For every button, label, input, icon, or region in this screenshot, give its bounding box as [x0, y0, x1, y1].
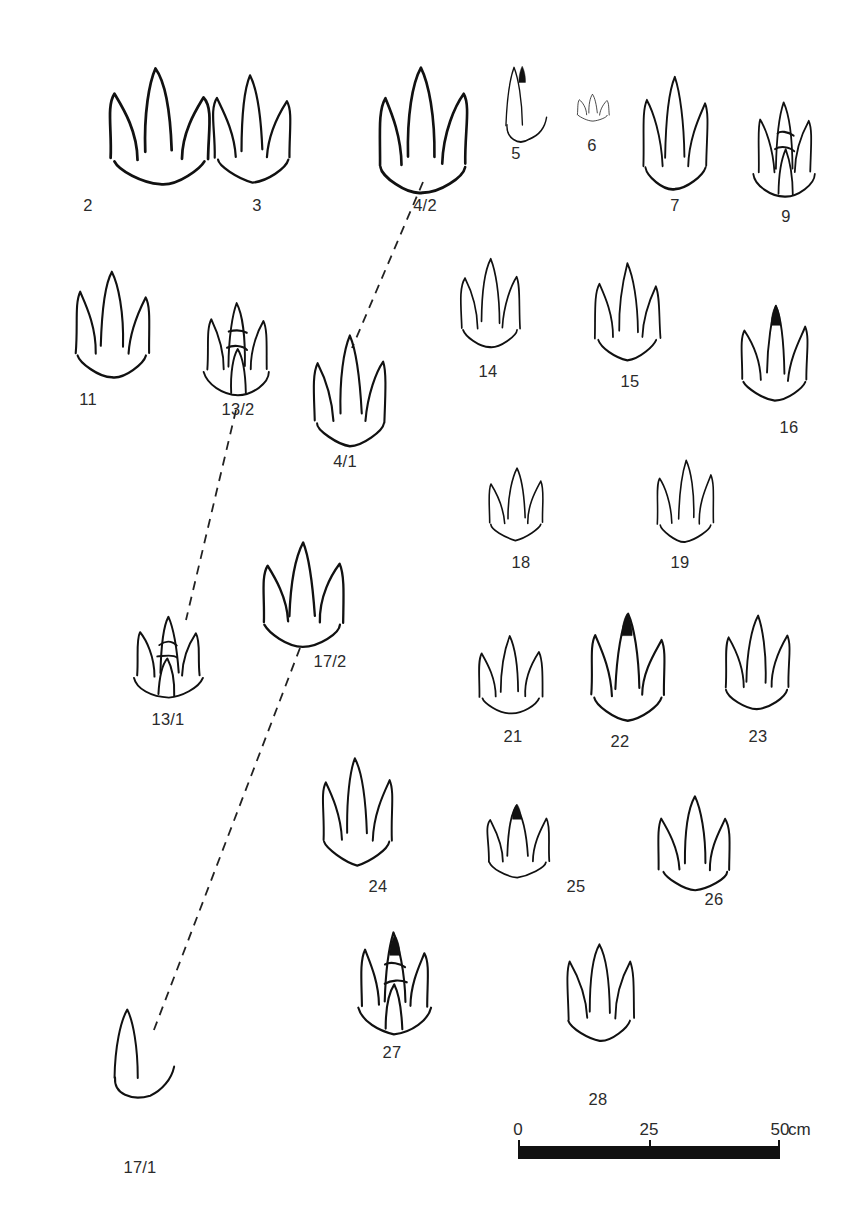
footprint-outline-17-2	[248, 535, 358, 650]
footprint-outline-11	[62, 262, 162, 382]
footprint-outline-4-1	[300, 330, 400, 450]
footprint-label-7: 7	[670, 196, 679, 215]
footprint-outline-17-1	[90, 1000, 185, 1105]
footprint-label-3: 3	[252, 196, 261, 215]
footprint-outline-26	[648, 790, 743, 895]
footprint-outline-15	[585, 258, 670, 363]
footprint-label-15: 15	[621, 372, 640, 391]
scale-tick-label-0: 0	[513, 1120, 522, 1140]
footprint-outline-27	[345, 930, 445, 1035]
footprint-label-13-2: 13/2	[222, 400, 255, 419]
footprint-outline-28	[555, 935, 645, 1045]
footprint-label-13-1: 13/1	[152, 710, 185, 729]
footprint-outline-3	[200, 70, 305, 185]
footprint-label-14: 14	[479, 362, 498, 381]
footprint-label-5: 5	[511, 144, 520, 163]
footprint-label-23: 23	[749, 727, 768, 746]
footprint-label-28: 28	[589, 1090, 608, 1109]
footprint-outline-5	[490, 62, 555, 147]
footprint-label-21: 21	[504, 727, 523, 746]
footprint-label-4-1: 4/1	[333, 452, 357, 471]
scale-bar-unit: cm	[788, 1120, 811, 1140]
connector-line-c13	[186, 410, 236, 620]
scale-tick-mark-50	[778, 1140, 780, 1159]
footprint-outline-14	[450, 252, 530, 352]
footprint-label-2: 2	[83, 196, 92, 215]
footprint-outline-19	[648, 455, 723, 545]
figure-plate: 234/256791113/24/1141516181913/117/22122…	[0, 0, 850, 1209]
scale-bar: 02550 cm	[518, 1120, 780, 1167]
footprint-outline-9	[742, 100, 827, 200]
footprint-outline-18	[478, 462, 553, 542]
scale-tick-mark-25	[649, 1140, 651, 1159]
footprint-label-19: 19	[671, 553, 690, 572]
footprint-label-17-1: 17/1	[124, 1158, 157, 1177]
footprint-label-25: 25	[567, 877, 586, 896]
footprint-label-11: 11	[79, 390, 97, 409]
footprint-outline-24	[310, 752, 405, 867]
scale-tick-mark-0	[518, 1140, 520, 1159]
footprint-outline-13-1	[120, 615, 215, 700]
footprint-label-9: 9	[781, 207, 790, 226]
footprint-outline-22	[578, 608, 678, 723]
footprint-label-6: 6	[587, 136, 596, 155]
footprint-label-27: 27	[383, 1043, 402, 1062]
footprint-label-26: 26	[705, 890, 724, 909]
footprint-outline-13-2	[192, 298, 282, 398]
scale-tick-label-50: 50	[771, 1120, 790, 1140]
scale-tick-label-25: 25	[640, 1120, 659, 1140]
footprint-label-24: 24	[369, 877, 388, 896]
footprint-label-17-2: 17/2	[314, 652, 347, 671]
footprint-outline-4-2	[360, 58, 485, 198]
footprint-outline-25	[475, 800, 560, 880]
footprint-outline-6	[572, 92, 614, 122]
connector-line-c17	[152, 648, 300, 1035]
footprint-label-4-2: 4/2	[413, 196, 437, 215]
footprint-outline-21	[468, 632, 553, 717]
footprint-label-16: 16	[780, 418, 799, 437]
footprint-label-22: 22	[611, 732, 630, 751]
footprint-outline-23	[712, 608, 802, 713]
footprint-label-18: 18	[512, 553, 531, 572]
footprint-outline-16	[730, 300, 820, 405]
footprint-outline-7	[630, 70, 720, 195]
